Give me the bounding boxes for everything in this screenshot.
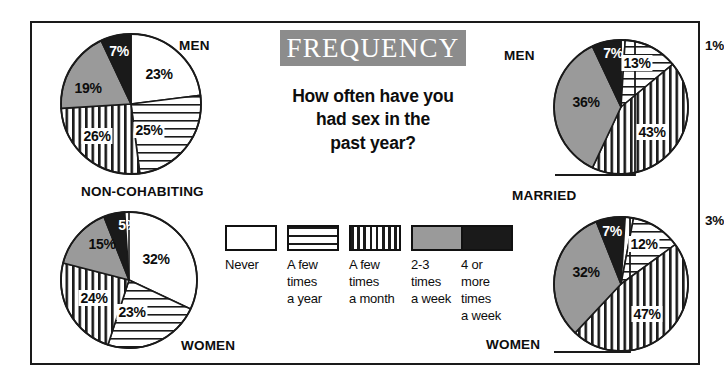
pie-group-label-non-cohabiting-men: MEN xyxy=(179,38,210,53)
legend-label-never: Never xyxy=(225,256,281,273)
pie-chart-non-cohabiting-men: 23%25%26%19%7%MEN xyxy=(59,32,203,176)
pie-group-label-married-women: WOMEN xyxy=(486,337,540,352)
legend-label-few-month: A fewtimesa month xyxy=(349,256,405,307)
pie-svg-non-cohabiting-men xyxy=(59,32,203,176)
question-line-2: had sex in the xyxy=(248,108,498,131)
pie-slice-label-married-women-2: 47% xyxy=(631,306,662,322)
question-line-3: past year? xyxy=(248,132,498,155)
question-heading: How often have you had sex in the past y… xyxy=(248,85,498,155)
pie-slice-label-non-cohabiting-women-0: 32% xyxy=(142,251,169,267)
pie-slice-label-non-cohabiting-women-2: 24% xyxy=(78,290,109,306)
pie-slice-label-non-cohabiting-men-4: 7% xyxy=(109,43,129,59)
legend-swatch-2-3-week xyxy=(411,225,463,251)
legend-label-4-more-week: 4 ormoretimesa week xyxy=(461,256,517,325)
pie-slice-label-non-cohabiting-men-1: 25% xyxy=(133,122,164,138)
legend-swatch-few-month xyxy=(349,225,401,251)
pie-chart-married-men: 13%43%36%7%1%MEN xyxy=(552,38,690,176)
pie-callout-label-married-men: 1% xyxy=(705,38,724,53)
pie-slice-label-non-cohabiting-women-1: 23% xyxy=(116,304,147,320)
legend-item-few-year: A fewtimesa year xyxy=(287,225,343,307)
legend-swatch-4-more-week xyxy=(461,225,513,251)
legend-swatch-never xyxy=(225,225,277,251)
pie-group-label-married-men: MEN xyxy=(504,48,535,63)
legend-swatch-few-year xyxy=(287,225,339,251)
pie-slice-label-non-cohabiting-women-4: 5% xyxy=(118,217,138,233)
infographic-panel: FREQUENCY How often have you had sex in … xyxy=(30,21,700,365)
title-text: FREQUENCY xyxy=(287,35,460,62)
pie-slice-label-married-men-4: 7% xyxy=(603,45,623,61)
pie-chart-non-cohabiting-women: 32%23%24%15%5%WOMEN xyxy=(59,210,199,350)
pie-slice-label-married-women-3: 32% xyxy=(572,264,599,280)
legend-item-never: Never xyxy=(225,225,281,273)
pie-slice-label-married-women-4: 7% xyxy=(602,223,622,239)
pie-slice-label-married-men-3: 36% xyxy=(572,94,599,110)
legend-item-few-month: A fewtimesa month xyxy=(349,225,405,307)
pie-slice-label-married-men-1: 13% xyxy=(621,55,652,71)
pie-slice-label-non-cohabiting-men-3: 19% xyxy=(74,80,101,96)
legend-label-few-year: A fewtimesa year xyxy=(287,256,343,307)
legend-label-2-3-week: 2-3timesa week xyxy=(411,256,467,307)
legend-item-2-3-week: 2-3timesa week xyxy=(411,225,467,307)
pie-chart-married-women: 12%47%32%7%3%WOMEN xyxy=(552,215,690,353)
pie-status-label-married-men: MARRIED xyxy=(512,188,576,203)
pie-status-label-non-cohabiting-men: NON-COHABITING xyxy=(81,184,204,199)
pie-slice-label-married-men-2: 43% xyxy=(636,124,667,140)
pie-callout-label-married-women: 3% xyxy=(705,213,724,228)
pie-slice-label-married-women-1: 12% xyxy=(628,236,659,252)
pie-slice-label-non-cohabiting-men-0: 23% xyxy=(145,66,172,82)
title-banner: FREQUENCY xyxy=(280,30,466,66)
pie-slice-label-non-cohabiting-men-2: 26% xyxy=(81,128,112,144)
legend-item-4-more-week: 4 ormoretimesa week xyxy=(461,225,517,325)
legend: NeverA fewtimesa yearA fewtimesa month2-… xyxy=(225,225,485,345)
question-line-1: How often have you xyxy=(248,85,498,108)
pie-slice-label-non-cohabiting-women-3: 15% xyxy=(88,236,115,252)
